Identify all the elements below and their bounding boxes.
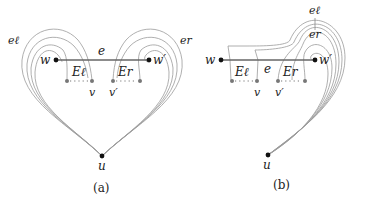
label-u: u <box>98 159 106 173</box>
label-u: u <box>263 158 271 172</box>
label-e-left: eℓ <box>309 4 321 17</box>
label-v: v <box>89 86 96 99</box>
label-E-right: Er <box>117 65 134 79</box>
vertex-v <box>90 79 94 83</box>
label-v-prime: v′ <box>275 86 284 99</box>
vertex-w-prime <box>313 58 318 63</box>
label-e: e <box>264 62 271 76</box>
vertex-er-end <box>303 79 307 83</box>
vertex-v-prime <box>111 79 115 83</box>
label-e: e <box>98 44 105 58</box>
vertex-w <box>219 58 224 63</box>
label-E-right: Er <box>282 65 299 79</box>
label-w: w <box>205 53 216 67</box>
vertex-w <box>54 58 59 63</box>
label-E-left: Eℓ <box>71 65 86 79</box>
vertex-el-start <box>65 79 69 83</box>
label-w: w <box>40 53 51 67</box>
label-w-prime: w′ <box>319 53 332 67</box>
label-w-prime: w′ <box>153 53 166 67</box>
label-v: v <box>254 86 261 99</box>
vertex-u <box>100 154 105 159</box>
panel-b: w w′ u v v′ e Eℓ Er eℓ er (b) <box>205 4 345 192</box>
label-e-right: er <box>309 28 322 41</box>
panel-a: w w′ u v v′ e Eℓ Er eℓ er (a) <box>8 29 193 195</box>
label-e-left: eℓ <box>8 34 20 47</box>
vertex-v <box>255 79 259 83</box>
label-e-right: er <box>180 34 193 47</box>
caption-b: (b) <box>273 178 290 192</box>
vertex-w-prime <box>147 58 152 63</box>
edge-bundle-spiral <box>228 20 345 155</box>
vertex-el-start <box>230 79 234 83</box>
caption-a: (a) <box>93 181 110 195</box>
vertex-u <box>266 153 271 158</box>
label-v-prime: v′ <box>109 86 118 99</box>
label-E-left: Eℓ <box>234 65 249 79</box>
vertex-v-prime <box>276 79 280 83</box>
figure: w w′ u v v′ e Eℓ Er eℓ er (a) <box>0 0 365 204</box>
vertex-er-end <box>138 79 142 83</box>
